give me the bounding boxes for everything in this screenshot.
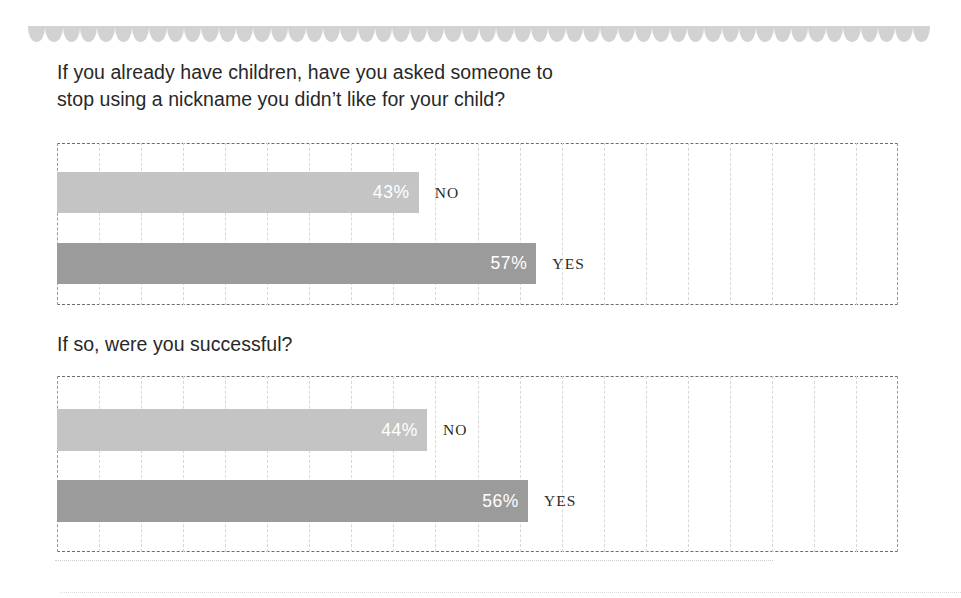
scallop-shape bbox=[774, 27, 791, 42]
bar-label-yes-2: YES bbox=[544, 492, 577, 510]
scallop-shape bbox=[253, 27, 270, 42]
bottom-dotted-rule bbox=[55, 560, 773, 561]
bar-value-no-2: 44% bbox=[381, 420, 418, 441]
scallop-shape bbox=[167, 27, 184, 42]
scallop-shape bbox=[63, 27, 80, 42]
bar-label-yes-1: YES bbox=[552, 255, 585, 273]
scallop-shape bbox=[756, 27, 773, 42]
scallop-shape bbox=[514, 27, 531, 42]
scallop-shape bbox=[704, 27, 721, 42]
scallop-shape bbox=[618, 27, 635, 42]
scallop-shape bbox=[427, 27, 444, 42]
scallop-shape bbox=[288, 27, 305, 42]
scallop-shape bbox=[115, 27, 132, 42]
scallop-shape bbox=[323, 27, 340, 42]
bar-label-no-2: NO bbox=[443, 421, 468, 439]
scallop-shape bbox=[132, 27, 149, 42]
bar-yes-2: 56% bbox=[57, 480, 528, 522]
scallop-shape bbox=[878, 27, 895, 42]
scallop-shape bbox=[670, 27, 687, 42]
scallop-shape bbox=[80, 27, 97, 42]
scallop-shape bbox=[479, 27, 496, 42]
scallop-shape bbox=[271, 27, 288, 42]
scallop-shape bbox=[583, 27, 600, 42]
bar-row-no-1: 43% NO bbox=[57, 172, 898, 213]
bar-row-no-2: 44% NO bbox=[57, 409, 898, 451]
scallop-shape bbox=[201, 27, 218, 42]
bar-label-no-1: NO bbox=[435, 184, 460, 202]
scallop-shape bbox=[548, 27, 565, 42]
scallop-shape bbox=[97, 27, 114, 42]
scallop-shape bbox=[600, 27, 617, 42]
bar-row-yes-1: 57% YES bbox=[57, 243, 898, 284]
bar-row-yes-2: 56% YES bbox=[57, 480, 898, 522]
scallop-shape bbox=[913, 27, 930, 42]
scallop-shape bbox=[531, 27, 548, 42]
scallop-shape bbox=[808, 27, 825, 42]
scallop-shape bbox=[236, 27, 253, 42]
scallop-row bbox=[28, 27, 930, 44]
scallop-shape bbox=[826, 27, 843, 42]
scallop-shape bbox=[462, 27, 479, 42]
scallop-shape bbox=[861, 27, 878, 42]
scallop-shape bbox=[45, 27, 62, 42]
scallop-shape bbox=[375, 27, 392, 42]
bar-value-no-1: 43% bbox=[373, 182, 410, 203]
scallop-shape bbox=[358, 27, 375, 42]
scallop-shape bbox=[306, 27, 323, 42]
scallop-shape bbox=[149, 27, 166, 42]
scallop-shape bbox=[392, 27, 409, 42]
scallop-shape bbox=[340, 27, 357, 42]
scallop-shape bbox=[722, 27, 739, 42]
bar-value-yes-1: 57% bbox=[491, 253, 528, 274]
scallop-shape bbox=[635, 27, 652, 42]
bar-yes-1: 57% bbox=[57, 243, 536, 284]
question-heading-2: If so, were you successful? bbox=[57, 331, 677, 358]
bottom-dotted-rule-secondary bbox=[60, 592, 961, 593]
chart-frame-2 bbox=[57, 376, 898, 552]
bar-chart-1: 43% NO 57% YES bbox=[57, 143, 898, 305]
scallop-shape bbox=[444, 27, 461, 42]
bar-chart-2: 44% NO 56% YES bbox=[57, 376, 898, 552]
scallop-shape bbox=[184, 27, 201, 42]
scallop-shape bbox=[566, 27, 583, 42]
bar-no-1: 43% bbox=[57, 172, 419, 213]
question-heading-1: If you already have children, have you a… bbox=[57, 59, 677, 113]
scallop-shape bbox=[496, 27, 513, 42]
scallop-shape bbox=[739, 27, 756, 42]
bar-value-yes-2: 56% bbox=[482, 491, 519, 512]
scallop-shape bbox=[687, 27, 704, 42]
scallop-shape bbox=[652, 27, 669, 42]
scallop-shape bbox=[791, 27, 808, 42]
scallop-shape bbox=[410, 27, 427, 42]
scallop-shape bbox=[219, 27, 236, 42]
scalloped-border-decoration bbox=[28, 26, 930, 44]
scallop-shape bbox=[28, 27, 45, 42]
scallop-shape bbox=[843, 27, 860, 42]
scallop-shape bbox=[895, 27, 912, 42]
bar-no-2: 44% bbox=[57, 409, 427, 451]
